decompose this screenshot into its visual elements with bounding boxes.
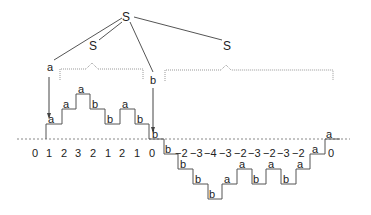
- tree-inner-right-label: S: [223, 39, 231, 53]
- step-label: a: [122, 98, 129, 110]
- height-labels: 012321210−2−3−4−3−2−3−2−3−20: [32, 147, 334, 159]
- step-label: a: [48, 113, 55, 125]
- height-label: 1: [134, 147, 140, 159]
- step-label: b: [92, 98, 98, 110]
- step-label: b: [152, 128, 158, 140]
- step-label: a: [268, 158, 275, 170]
- height-label: −2: [292, 147, 305, 159]
- step-label: a: [312, 143, 319, 155]
- step-label: a: [224, 173, 231, 185]
- step-label: b: [209, 188, 215, 200]
- height-label: −2: [234, 147, 247, 159]
- step-label: a: [78, 83, 85, 95]
- right-brace: [165, 65, 333, 81]
- final-height-label: 0: [328, 147, 334, 159]
- dyck-path-diagram: S S S a b aaabbabbbbbbaababaaa 012321210…: [0, 0, 371, 215]
- height-label: −3: [190, 147, 203, 159]
- step-label: a: [326, 128, 333, 140]
- step-labels: aaabbabbbbbbaababaaa: [48, 83, 333, 200]
- height-label: 2: [119, 147, 125, 159]
- step-label: a: [63, 98, 70, 110]
- tree-inner-left-label: S: [89, 39, 97, 53]
- height-label: −3: [248, 147, 261, 159]
- tree-root-label: S: [122, 10, 130, 24]
- step-label: b: [165, 143, 171, 155]
- height-label: −2: [263, 147, 276, 159]
- height-label: −4: [204, 147, 217, 159]
- height-label: −3: [219, 147, 232, 159]
- step-label: a: [239, 158, 246, 170]
- height-label: 1: [105, 147, 111, 159]
- step-label: b: [253, 173, 259, 185]
- height-label: 0: [32, 147, 38, 159]
- step-label: b: [107, 113, 113, 125]
- step-label: a: [297, 158, 304, 170]
- tree-leaf-a-label: a: [47, 61, 54, 73]
- height-label: 0: [149, 147, 155, 159]
- step-label: b: [195, 173, 201, 185]
- height-label: −3: [277, 147, 290, 159]
- height-label: −2: [175, 147, 188, 159]
- height-label: 2: [61, 147, 67, 159]
- left-brace: [60, 63, 143, 80]
- tree-leaf-b-label: b: [150, 74, 156, 86]
- step-label: b: [283, 173, 289, 185]
- arrow-b-down: [151, 88, 155, 133]
- height-label: 1: [46, 147, 52, 159]
- step-label: b: [137, 113, 143, 125]
- step-label: b: [180, 158, 186, 170]
- height-label: 3: [75, 147, 81, 159]
- tree-edges: [54, 17, 222, 72]
- height-label: 2: [90, 147, 96, 159]
